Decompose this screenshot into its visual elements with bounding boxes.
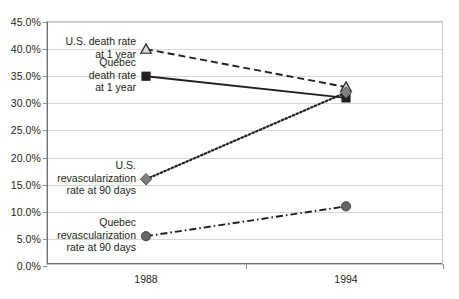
y-axis-tick-label: 30.0% (11, 97, 41, 109)
cropped-caption-fragment (62, 286, 422, 295)
y-axis-tick-label: 40.0% (11, 43, 41, 55)
series-annotation-label: U.S. revascularization rate at 90 days (57, 159, 136, 197)
y-axis-tick-label: 25.0% (11, 124, 41, 136)
x-axis-tick-label: 1994 (334, 273, 357, 285)
data-point-marker (341, 202, 350, 211)
series-line (146, 92, 346, 179)
x-axis-tick-label: 1988 (134, 273, 157, 285)
data-point-marker (141, 44, 151, 53)
y-axis-tick-label: 5.0% (17, 233, 41, 245)
series-annotation-label: Quebec revascularization rate at 90 days (57, 216, 136, 254)
data-point-marker (140, 174, 151, 185)
series-line (146, 206, 346, 236)
data-point-marker (141, 232, 150, 241)
line-chart: 0.0%5.0%10.0%15.0%20.0%25.0%30.0%35.0%40… (0, 0, 459, 299)
y-axis-tick-mark (43, 266, 47, 267)
series-annotation-label: Quebec death rate at 1 year (89, 56, 136, 94)
y-axis-tick-label: 10.0% (11, 206, 41, 218)
y-axis-tick-label: 20.0% (11, 152, 41, 164)
y-axis-tick-label: 45.0% (11, 16, 41, 28)
series-line (146, 76, 346, 98)
y-axis-tick-label: 35.0% (11, 70, 41, 82)
y-axis-tick-label: 0.0% (17, 260, 41, 272)
series-line (146, 49, 346, 87)
data-point-marker (141, 72, 150, 81)
y-axis-tick-label: 15.0% (11, 179, 41, 191)
